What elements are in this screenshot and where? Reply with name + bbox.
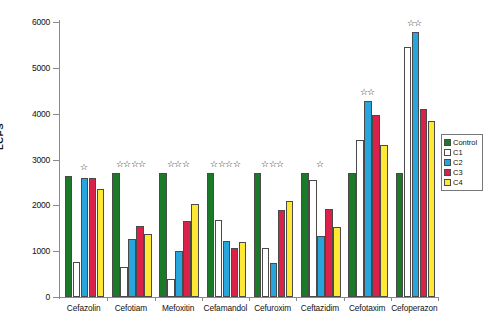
bar-c3-cefuroxim: [278, 210, 285, 297]
bar-c2-mefoxitin: [175, 251, 182, 297]
bar-c3-cefotaxim: [372, 115, 379, 297]
bar-chart: LCPS 0100020003000400050006000 ControlC1…: [0, 0, 503, 326]
bar-control-cefazolin: [65, 176, 72, 297]
significance-stars-cefotaxim: ☆☆: [338, 88, 397, 97]
bar-c2-cefotaxim: [364, 101, 371, 297]
bar-c3-mefoxitin: [183, 221, 190, 297]
y-axis-tick: [53, 205, 60, 206]
bar-c1-cefazolin: [73, 262, 80, 297]
bar-c1-cefuroxim: [262, 248, 269, 298]
y-axis-tick: [53, 160, 60, 161]
legend-swatch-icon: [444, 169, 451, 176]
bar-c3-ceftazidim: [325, 209, 332, 297]
x-axis-tick: [107, 297, 108, 301]
bar-c2-ceftazidim: [317, 236, 324, 297]
bar-control-cefamandol: [207, 173, 214, 297]
bar-c4-cefoperazon: [428, 121, 435, 297]
y-axis-tick-labels: 0100020003000400050006000: [0, 0, 50, 326]
bar-c2-cefuroxim: [270, 263, 277, 297]
bar-c3-cefoperazon: [420, 109, 427, 297]
bar-c4-cefazolin: [97, 189, 104, 297]
y-axis-tick-label: 4000: [32, 109, 50, 119]
bar-c2-cefoperazon: [412, 32, 419, 297]
legend-label: C3: [453, 169, 463, 177]
bar-c2-cefotiam: [128, 239, 135, 297]
bar-group: [60, 22, 107, 297]
significance-stars-ceftazidim: ☆: [290, 160, 349, 169]
bar-c4-cefotiam: [144, 234, 151, 297]
legend-label: C1: [453, 149, 463, 157]
x-axis-tick: [155, 297, 156, 301]
bar-c1-cefotiam: [120, 267, 127, 297]
legend-label: C4: [453, 179, 463, 187]
x-axis-tick: [202, 297, 203, 301]
y-axis-tick-label: 5000: [32, 63, 50, 73]
y-axis-tick: [53, 297, 60, 298]
legend-item-control: Control: [444, 138, 480, 148]
bar-c3-cefamandol: [231, 248, 238, 297]
significance-stars-cefoperazon: ☆☆: [385, 19, 444, 28]
bar-c1-ceftazidim: [309, 180, 316, 297]
legend-label: Control: [453, 139, 477, 147]
y-axis-tick-label: 2000: [32, 200, 50, 210]
bar-group: [344, 22, 391, 297]
x-axis-tick: [438, 297, 439, 301]
bar-c4-cefuroxim: [286, 201, 293, 297]
bar-c2-cefamandol: [223, 241, 230, 297]
bar-control-ceftazidim: [301, 173, 308, 297]
bar-c4-cefamandol: [239, 242, 246, 297]
y-axis-tick-label: 6000: [32, 17, 50, 27]
bar-c3-cefazolin: [89, 178, 96, 297]
bar-c1-cefotaxim: [356, 140, 363, 297]
bar-c2-cefazolin: [81, 178, 88, 297]
bar-c1-mefoxitin: [167, 279, 174, 297]
y-axis-tick: [53, 114, 60, 115]
x-axis-tick: [391, 297, 392, 301]
y-axis-tick-label: 1000: [32, 246, 50, 256]
legend-swatch-icon: [444, 159, 451, 166]
bar-control-mefoxitin: [159, 173, 166, 297]
chart-legend: ControlC1C2C3C4: [441, 134, 483, 191]
x-axis-label-cefoperazon: Cefoperazon: [385, 303, 444, 313]
legend-label: C2: [453, 159, 463, 167]
bar-c4-cefotaxim: [380, 145, 387, 297]
bar-c3-cefotiam: [136, 226, 143, 297]
bar-c4-mefoxitin: [191, 204, 198, 298]
bar-control-cefotaxim: [348, 173, 355, 297]
y-axis-tick-label: 3000: [32, 155, 50, 165]
y-axis-tick: [53, 22, 60, 23]
bar-group: [391, 22, 438, 297]
legend-swatch-icon: [444, 179, 451, 186]
y-axis-tick: [53, 68, 60, 69]
legend-item-c1: C1: [444, 148, 480, 158]
bar-c1-cefamandol: [215, 220, 222, 297]
legend-item-c4: C4: [444, 178, 480, 188]
x-axis-tick: [344, 297, 345, 301]
bar-c1-cefoperazon: [404, 47, 411, 297]
legend-item-c2: C2: [444, 158, 480, 168]
y-axis-tick: [53, 251, 60, 252]
bar-control-cefotiam: [112, 173, 119, 297]
bar-control-cefoperazon: [396, 173, 403, 297]
legend-item-c3: C3: [444, 168, 480, 178]
x-axis-tick: [249, 297, 250, 301]
bar-control-cefuroxim: [254, 173, 261, 297]
bar-c4-ceftazidim: [333, 227, 340, 297]
y-axis-tick-label: 0: [45, 292, 50, 302]
legend-swatch-icon: [444, 149, 451, 156]
x-axis-tick: [296, 297, 297, 301]
legend-swatch-icon: [444, 139, 451, 146]
